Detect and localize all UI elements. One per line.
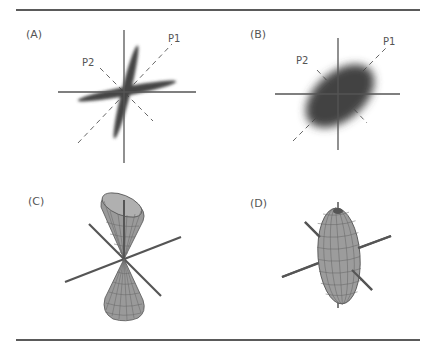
panel-c-graphic: [65, 188, 181, 321]
panel-a-graphic: [58, 30, 196, 163]
panel-b-graphic: [275, 38, 400, 150]
figure: (A) (B) (C) (D) P1 P2 P1 P2: [0, 0, 430, 350]
panel-label-c: (C): [28, 195, 44, 208]
lower-cone: [104, 259, 144, 321]
panel-d-graphic: [282, 202, 391, 308]
panel-a-p2-label: P2: [82, 57, 94, 68]
panel-a-p1-label: P1: [168, 33, 180, 44]
panel-label-a: (A): [26, 28, 42, 41]
panel-label-d: (D): [250, 197, 267, 210]
panel-b-p2-label: P2: [296, 55, 308, 66]
panel-b-p1-label: P1: [383, 36, 395, 47]
figure-graphics: [0, 0, 430, 350]
panel-label-b: (B): [250, 28, 266, 41]
